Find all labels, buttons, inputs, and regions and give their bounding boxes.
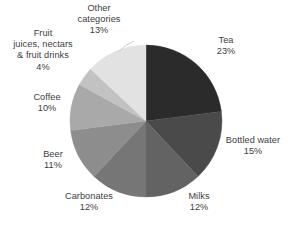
pie-slice-group — [70, 45, 222, 197]
slice-label-fruit-juices-line3: & fruit drinks — [2, 50, 84, 61]
slice-value-carbonates: 12% — [54, 202, 124, 213]
slice-label-carbonates-name: Carbonates — [54, 191, 124, 202]
slice-label-bottled-water-name: Bottled water — [214, 135, 292, 146]
slice-label-coffee-name: Coffee — [20, 92, 74, 103]
slice-label-beer-name: Beer — [31, 149, 75, 160]
slice-label-milks-name: Milks — [175, 191, 223, 202]
slice-label-tea-name: Tea — [196, 35, 256, 46]
slice-label-beer: Beer 11% — [31, 149, 75, 171]
slice-label-fruit-juices-line1: Fruit — [2, 28, 84, 39]
pie-chart-figure: Other categories 13% Tea 23% Bottled wat… — [0, 0, 294, 225]
slice-value-coffee: 10% — [20, 103, 74, 114]
slice-label-carbonates: Carbonates 12% — [54, 191, 124, 213]
slice-label-tea: Tea 23% — [196, 35, 256, 57]
slice-label-coffee: Coffee 10% — [20, 92, 74, 114]
slice-value-fruit-juices: 4% — [2, 62, 84, 73]
slice-label-other-categories-line2: categories — [62, 14, 136, 25]
slice-label-other-categories-line1: Other — [62, 3, 136, 14]
slice-value-tea: 23% — [196, 46, 256, 57]
slice-value-beer: 11% — [31, 160, 75, 171]
slice-label-fruit-juices: Fruit juices, nectars & fruit drinks 4% — [2, 28, 84, 73]
slice-label-fruit-juices-line2: juices, nectars — [2, 39, 84, 50]
slice-value-milks: 12% — [175, 202, 223, 213]
slice-label-milks: Milks 12% — [175, 191, 223, 213]
slice-label-bottled-water: Bottled water 15% — [214, 135, 292, 157]
slice-value-bottled-water: 15% — [214, 146, 292, 157]
